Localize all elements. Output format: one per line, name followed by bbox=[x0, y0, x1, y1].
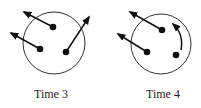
particle-dot bbox=[144, 49, 151, 56]
curved-velocity-arrow bbox=[173, 24, 182, 50]
particle-dot bbox=[37, 46, 44, 53]
panel-label: Time 3 bbox=[34, 87, 68, 101]
velocity-arrow bbox=[118, 34, 147, 52]
panel-time-3: Time 3 bbox=[11, 12, 89, 101]
panel-time-4: Time 4 bbox=[118, 12, 191, 101]
velocity-arrow bbox=[11, 33, 40, 49]
particle-dot bbox=[159, 27, 166, 34]
container-circle bbox=[23, 12, 85, 74]
particle-dot bbox=[50, 24, 57, 31]
particle-dot bbox=[173, 52, 180, 59]
particle-diagram: Time 3 Time 4 bbox=[0, 0, 201, 108]
panel-label: Time 4 bbox=[146, 87, 180, 101]
particle-dot bbox=[63, 49, 70, 56]
